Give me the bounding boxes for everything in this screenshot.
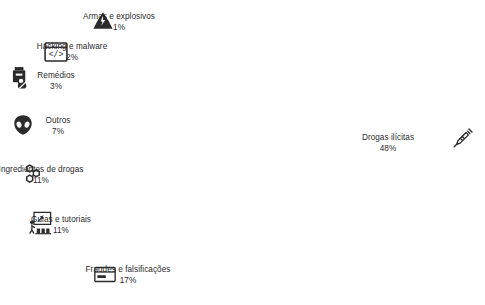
alien-icon	[13, 114, 33, 136]
slice-label-value: 48%	[362, 144, 414, 155]
slice-label-drogas-ilicitas: Drogas ilícitas 48%	[362, 133, 414, 155]
presentation-teacher-icon	[28, 211, 52, 235]
slice-label-name: Remédios	[37, 71, 74, 80]
molecule-icon	[22, 163, 44, 185]
slice-label-value: 3%	[37, 82, 74, 93]
slice-label-remedios: Remédios 3%	[37, 71, 74, 93]
slice-label-outros: Outros 7%	[46, 116, 71, 138]
bomb-explosion-icon	[92, 11, 114, 30]
syringe-icon	[452, 127, 474, 149]
slice-label-name: Outros	[46, 116, 71, 125]
slice-label-value: 7%	[46, 127, 71, 138]
slice-label-name: Drogas ilícitas	[362, 133, 414, 142]
medicine-bottle-icon	[10, 66, 30, 90]
svg-text:</>: </>	[49, 50, 64, 59]
code-window-icon: </>	[44, 42, 68, 62]
donut-chart: Drogas ilícitas 48% Fraudes e falsificaç…	[0, 0, 485, 305]
credit-card-icon	[94, 266, 116, 283]
